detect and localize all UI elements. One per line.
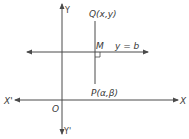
label-x-prime: X' xyxy=(3,96,13,106)
label-origin: O xyxy=(52,104,59,114)
label-x: X xyxy=(179,96,187,106)
right-angle-mark xyxy=(95,52,100,57)
label-point-q: Q(x,y) xyxy=(89,9,117,19)
label-point-m: M xyxy=(96,41,104,51)
label-y-axis: Y xyxy=(64,6,70,15)
coordinate-diagram: Y Q(x,y) M y = b P(α,β) X' X O Y' xyxy=(0,0,189,139)
label-line-y-b: y = b xyxy=(114,41,140,51)
label-y-prime: Y' xyxy=(63,127,71,136)
label-point-p: P(α,β) xyxy=(91,88,118,98)
